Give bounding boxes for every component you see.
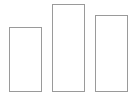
bar-3 [95, 15, 128, 92]
bar-1 [9, 27, 42, 92]
bar-2 [52, 4, 85, 92]
